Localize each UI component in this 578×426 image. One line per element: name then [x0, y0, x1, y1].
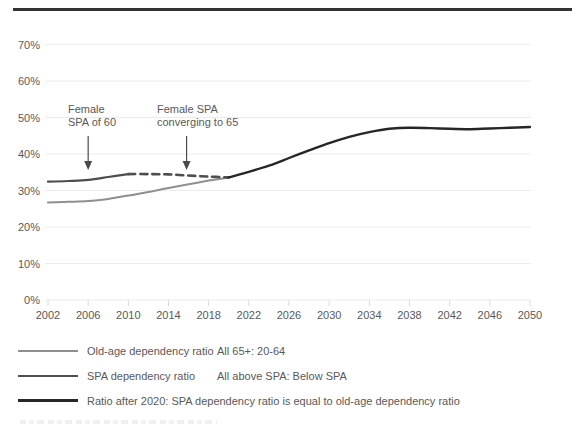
x-axis-label: 2038 — [397, 309, 421, 321]
annotation-arrowhead-icon — [84, 161, 92, 170]
legend-label: Old-age dependency ratio — [87, 345, 217, 357]
x-axis-label: 2042 — [437, 309, 461, 321]
annotation-line: Female SPA — [157, 103, 238, 116]
old-age-line-swatch — [18, 350, 78, 352]
y-axis-label: 40% — [18, 148, 40, 160]
dependency-ratio-chart: 0%10%20%30%40%50%60%70%20022006201020142… — [0, 0, 578, 336]
legend-item-spa-dependency-ratio: SPA dependency ratio All above SPA: Belo… — [18, 363, 572, 388]
annotation-line: converging to 65 — [157, 116, 238, 129]
y-axis-label: 0% — [24, 294, 40, 306]
annotation-line: SPA of 60 — [68, 116, 116, 129]
legend-item-ratio-after-2020: Ratio after 2020: SPA dependency ratio i… — [18, 388, 572, 413]
x-axis-label: 2022 — [237, 309, 261, 321]
legend-item-old-age-dependency-ratio: Old-age dependency ratio All 65+: 20-64 — [18, 338, 572, 363]
x-axis-label: 2026 — [277, 309, 301, 321]
cropped-source-text — [20, 420, 217, 424]
legend-label: SPA dependency ratio — [87, 370, 217, 382]
dependency-ratio-figure: 0%10%20%30%40%50%60%70%20022006201020142… — [0, 0, 578, 426]
spa-line-swatch — [18, 375, 78, 377]
y-axis-label: 10% — [18, 258, 40, 270]
x-axis-label: 2030 — [317, 309, 341, 321]
y-axis-label: 60% — [18, 75, 40, 87]
chart-legend: Old-age dependency ratio All 65+: 20-64 … — [18, 338, 572, 413]
x-axis-label: 2050 — [518, 309, 542, 321]
y-axis-label: 70% — [18, 39, 40, 51]
y-axis-label: 50% — [18, 112, 40, 124]
annotation-female-spa-60: Female SPA of 60 — [68, 103, 116, 129]
series-spa-dependency-line — [48, 174, 128, 182]
x-axis-label: 2034 — [357, 309, 381, 321]
series-ratio-after-2020-line — [229, 127, 530, 177]
annotation-line: Female — [68, 103, 116, 116]
y-axis-label: 30% — [18, 185, 40, 197]
legend-description: All 65+: 20-64 — [217, 345, 572, 357]
ratio-after-2020-line-swatch — [18, 399, 78, 402]
annotation-arrowhead-icon — [183, 161, 191, 170]
x-axis-label: 2018 — [196, 309, 220, 321]
legend-description: All above SPA: Below SPA — [217, 370, 572, 382]
legend-label: Ratio after 2020: SPA dependency ratio i… — [87, 395, 572, 407]
x-axis-label: 2006 — [76, 309, 100, 321]
x-axis-label: 2014 — [156, 309, 180, 321]
x-axis-label: 2002 — [36, 309, 60, 321]
series-spa-dashed-line — [128, 174, 229, 177]
x-axis-label: 2046 — [478, 309, 502, 321]
annotation-female-spa-converging-65: Female SPA converging to 65 — [157, 103, 238, 129]
x-axis-label: 2010 — [116, 309, 140, 321]
y-axis-label: 20% — [18, 221, 40, 233]
